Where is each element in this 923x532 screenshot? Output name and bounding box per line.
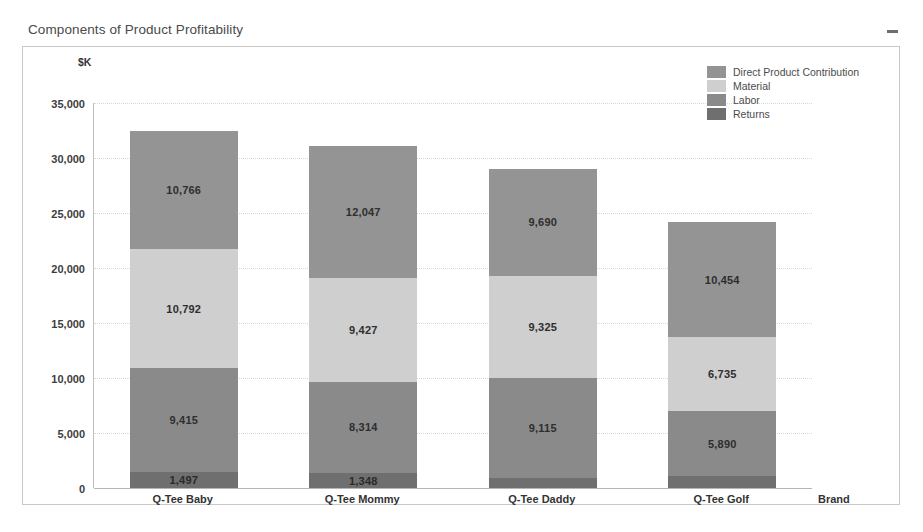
bar-segment[interactable] — [668, 476, 776, 488]
y-axis-tick-label: 30,000 — [51, 153, 85, 165]
gridline: 35,000 — [94, 103, 812, 104]
y-axis-tick-label: 10,000 — [51, 373, 85, 385]
x-axis-category-label: Q-Tee Baby — [103, 493, 263, 505]
bar-segment[interactable] — [489, 478, 597, 488]
bar-segment-label: 9,690 — [528, 216, 557, 228]
legend-swatch — [707, 80, 726, 92]
y-axis-tick-label: 20,000 — [51, 263, 85, 275]
legend-item[interactable]: Labor — [707, 93, 889, 106]
y-axis-unit-label: $K — [78, 56, 91, 68]
x-axis-category-label: Q-Tee Daddy — [462, 493, 622, 505]
widget-title-bar: Components of Product Profitability — [0, 22, 923, 44]
bar-segment-label: 9,415 — [169, 414, 198, 426]
bar-segment-label: 1,497 — [169, 474, 198, 486]
bar-segment-label: 8,314 — [349, 421, 378, 433]
bar-segment[interactable]: 9,690 — [489, 169, 597, 276]
minimize-icon-bar — [887, 30, 898, 33]
bar-segment-label: 10,454 — [705, 274, 740, 286]
bar-segment-label: 9,325 — [528, 321, 557, 333]
y-axis-tick-label: 35,000 — [51, 98, 85, 110]
legend-label: Labor — [733, 94, 760, 106]
legend-swatch — [707, 108, 726, 120]
bar-segment[interactable]: 1,348 — [309, 473, 417, 488]
bar-segment-label: 12,047 — [346, 206, 381, 218]
bar-segment[interactable]: 12,047 — [309, 146, 417, 279]
bar-segment[interactable]: 10,766 — [130, 131, 238, 249]
y-axis-tick-label: 15,000 — [51, 318, 85, 330]
bar-segment[interactable]: 9,325 — [489, 276, 597, 379]
bar-group[interactable]: 9,6909,3259,115 — [489, 169, 597, 488]
legend-item[interactable]: Returns — [707, 107, 889, 120]
x-axis-category-label: Q-Tee Golf — [641, 493, 801, 505]
bar-group[interactable]: 10,4546,7355,890 — [668, 222, 776, 488]
y-axis-tick-label: 0 — [79, 483, 85, 495]
bar-segment[interactable]: 10,454 — [668, 222, 776, 337]
legend-label: Material — [733, 80, 770, 92]
bar-group[interactable]: 10,76610,7929,4151,497 — [130, 131, 238, 488]
legend-swatch — [707, 66, 726, 78]
legend-swatch — [707, 94, 726, 106]
bar-segment[interactable]: 9,415 — [130, 368, 238, 472]
minimize-icon[interactable] — [887, 29, 898, 34]
page-title: Components of Product Profitability — [28, 22, 243, 37]
bar-segment-label: 10,766 — [166, 184, 201, 196]
bar-segment[interactable]: 9,115 — [489, 378, 597, 478]
plot-area: 05,00010,00015,00020,00025,00030,00035,0… — [93, 103, 812, 488]
chart-legend: Direct Product ContributionMaterialLabor… — [707, 65, 889, 121]
x-axis-category-label: Q-Tee Mommy — [282, 493, 442, 505]
x-axis-title: Brand — [818, 493, 850, 505]
bar-segment[interactable]: 9,427 — [309, 278, 417, 382]
legend-label: Direct Product Contribution — [733, 66, 859, 78]
bar-segment-label: 9,115 — [529, 422, 557, 434]
bar-segment[interactable]: 8,314 — [309, 382, 417, 473]
bar-segment[interactable]: 6,735 — [668, 337, 776, 411]
bar-group[interactable]: 12,0479,4278,3141,348 — [309, 146, 417, 488]
bar-segment-label: 1,348 — [349, 475, 378, 487]
bar-segment-label: 9,427 — [349, 324, 378, 336]
chart-widget: Components of Product Profitability $K 0… — [0, 0, 923, 532]
legend-label: Returns — [733, 108, 770, 120]
bar-segment-label: 6,735 — [708, 368, 737, 380]
x-axis-categories: Q-Tee BabyQ-Tee MommyQ-Tee DaddyQ-Tee Go… — [93, 488, 811, 510]
y-axis-tick-label: 5,000 — [57, 428, 85, 440]
bar-segment[interactable]: 10,792 — [130, 249, 238, 368]
legend-item[interactable]: Material — [707, 79, 889, 92]
bar-segment-label: 5,890 — [708, 438, 737, 450]
bar-segment-label: 10,792 — [166, 303, 201, 315]
bar-segment[interactable]: 1,497 — [130, 472, 238, 488]
chart-frame: $K 05,00010,00015,00020,00025,00030,0003… — [22, 46, 900, 505]
y-axis-tick-label: 25,000 — [51, 208, 85, 220]
bar-segment[interactable]: 5,890 — [668, 411, 776, 476]
legend-item[interactable]: Direct Product Contribution — [707, 65, 889, 78]
